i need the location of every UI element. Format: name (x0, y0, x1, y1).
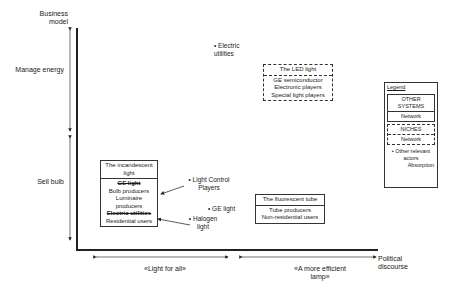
actor: Residential users (103, 218, 155, 226)
actor: Non-residential users (258, 214, 322, 222)
y-segment-sell-bulb: Sell bulb (0, 178, 64, 186)
system-fluorescent: The fluorescent tube Tube producers Non-… (255, 194, 325, 224)
niche-led: The LED light GE semiconductor Electroni… (263, 64, 333, 101)
actor-ge-light: • GE light (208, 205, 248, 213)
actor-electric-utilities: • Electric utilities (214, 42, 254, 58)
actor: Tube producers (258, 207, 322, 215)
y-axis-title: Business model (20, 10, 68, 26)
legend-niches: NICHES Network (387, 124, 435, 145)
actor-light-control-players: • Light Control Players (184, 176, 234, 192)
legend-title: Legend (385, 83, 437, 92)
x-segment-light-for-all: «Light for all» (130, 265, 200, 273)
legend-other-relevant: • Other relevant actors (385, 148, 437, 162)
actor: Bulb producers (103, 188, 155, 196)
actor-halogen-light: • Halogen light (188, 215, 218, 231)
system-title: The incandescent light (101, 161, 157, 179)
actor: GE semiconductor (266, 77, 330, 85)
legend-other-systems: OTHER SYSTEMS Network (387, 94, 435, 122)
legend: Legend OTHER SYSTEMS Network NICHES Netw… (384, 82, 438, 188)
actor-struck: Electric utilities (103, 210, 155, 218)
x-axis-title: Political discourse (378, 255, 422, 271)
x-segment-efficient-lamp: «A more efficient lamp» (290, 265, 350, 281)
actor: Electronic players (266, 84, 330, 92)
y-segment-manage-energy: Manage energy (0, 66, 64, 74)
niche-title: The LED light (264, 65, 332, 76)
legend-absorption: Absorption (385, 162, 437, 169)
actor: Special light players (266, 92, 330, 100)
system-title: The fluorescent tube (256, 195, 324, 206)
actor-struck: GE light (103, 180, 155, 188)
system-incandescent: The incandescent light GE light Bulb pro… (100, 160, 158, 227)
actor: Luminaire producers (103, 195, 155, 210)
